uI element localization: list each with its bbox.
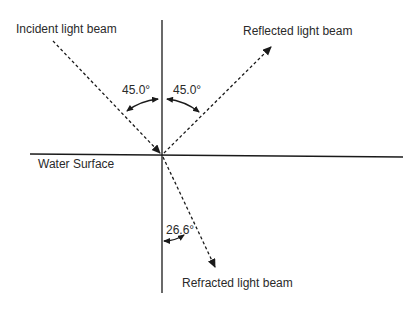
reflection-angle-arc	[167, 99, 199, 112]
reflected-beam	[164, 47, 271, 153]
incident-beam	[53, 41, 160, 153]
refraction-angle-label: 26.6°	[166, 223, 194, 237]
incidence-angle-arc	[127, 99, 158, 111]
incidence-angle-label: 45.0°	[122, 83, 150, 97]
reflected-beam-label: Reflected light beam	[243, 24, 352, 38]
refraction-diagram	[0, 0, 418, 312]
water-surface-label: Water Surface	[38, 157, 114, 171]
incident-beam-label: Incident light beam	[16, 22, 117, 36]
reflection-angle-label: 45.0°	[173, 83, 201, 97]
refracted-beam	[163, 157, 215, 267]
refracted-beam-label: Refracted light beam	[182, 276, 293, 290]
